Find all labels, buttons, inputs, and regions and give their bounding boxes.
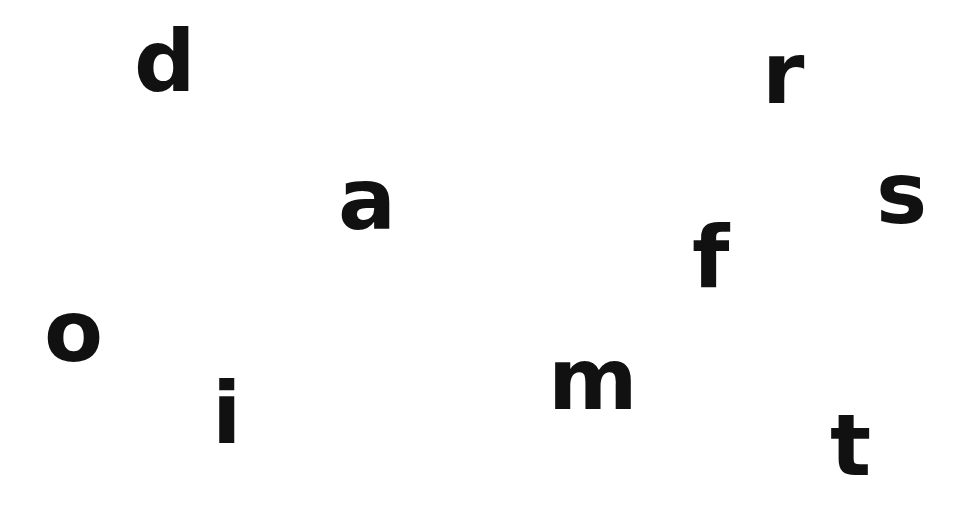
letter-s: s xyxy=(876,150,927,236)
letter-d: d xyxy=(134,18,196,104)
letter-m: m xyxy=(548,336,638,422)
letter-a: a xyxy=(338,156,396,242)
letter-r: r xyxy=(762,30,804,116)
letter-f: f xyxy=(692,214,729,300)
letter-o: o xyxy=(44,288,103,374)
letter-t: t xyxy=(830,402,871,488)
letter-i: i xyxy=(212,370,241,456)
